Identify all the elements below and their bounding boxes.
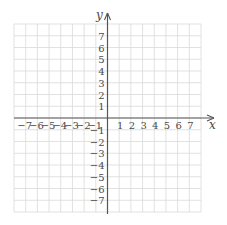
x-axis-label: x: [209, 118, 216, 132]
y-tick-label: 7: [98, 31, 104, 42]
axes: [14, 13, 214, 214]
y-tick-label: 6: [98, 43, 104, 54]
y-axis-label: y: [95, 8, 103, 22]
x-tick-label: 4: [152, 120, 158, 131]
x-tick-label: 1: [117, 120, 123, 131]
y-tick-label: −1: [90, 125, 105, 136]
y-tick-label: −2: [90, 137, 105, 148]
y-tick-label: −3: [90, 148, 105, 159]
y-tick-label: −7: [90, 195, 105, 206]
y-tick-label: −4: [90, 160, 105, 171]
y-tick-label: −5: [90, 172, 105, 183]
y-tick-label: 3: [98, 78, 104, 89]
y-tick-label: 2: [98, 90, 104, 101]
coordinate-plane: −7−6−5−4−3−2−11234567−7−6−5−4−3−2−112345…: [0, 0, 227, 225]
x-tick-label: 5: [164, 120, 170, 131]
y-tick-label: −6: [90, 184, 105, 195]
x-tick-label: 2: [129, 120, 135, 131]
y-tick-label: 5: [98, 54, 104, 65]
y-tick-label: 1: [98, 101, 104, 112]
x-tick-label: 7: [187, 120, 193, 131]
x-tick-label: 3: [140, 120, 146, 131]
y-tick-label: 4: [98, 66, 104, 77]
x-tick-label: 6: [175, 120, 181, 131]
